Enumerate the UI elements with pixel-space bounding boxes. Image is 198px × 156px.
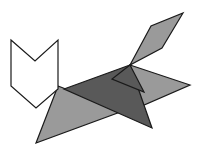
tangram-figure — [0, 0, 198, 156]
tangram-canvas — [0, 0, 198, 156]
